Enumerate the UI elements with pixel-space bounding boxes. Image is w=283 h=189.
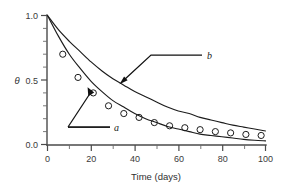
data-point-marker xyxy=(258,132,264,138)
data-point-marker xyxy=(212,129,218,135)
x-axis-major-ticks xyxy=(48,145,266,151)
y-tick-label-0.5: 0.5 xyxy=(25,76,38,86)
curve-b xyxy=(48,16,266,131)
data-point-marker xyxy=(228,130,234,136)
y-axis-major-ticks xyxy=(41,16,47,145)
chart-figure: 1.0 0.5 0.0 θ 0 20 40 60 80 100 T xyxy=(0,0,283,189)
data-point-marker xyxy=(105,103,111,109)
x-tick-label-80: 80 xyxy=(218,154,228,164)
y-tick-label-1: 1.0 xyxy=(25,11,38,21)
data-point-marker xyxy=(243,131,249,137)
x-tick-label-60: 60 xyxy=(174,154,184,164)
annotation-a: a xyxy=(68,87,119,132)
curve-label-a: a xyxy=(114,122,119,133)
data-point-marker xyxy=(75,74,81,80)
data-point-marker xyxy=(182,125,188,131)
annotation-b: b xyxy=(120,50,213,85)
x-tick-label-20: 20 xyxy=(86,154,96,164)
data-point-marker xyxy=(121,110,127,116)
data-point-marker xyxy=(166,123,172,129)
chart-plot-area: 1.0 0.5 0.0 θ 0 20 40 60 80 100 T xyxy=(0,0,283,189)
x-axis-title: Time (days) xyxy=(131,171,181,182)
y-axis-title: θ xyxy=(14,75,20,86)
data-point-marker xyxy=(60,51,66,57)
x-tick-label-100: 100 xyxy=(258,154,273,164)
y-tick-label-0: 0.0 xyxy=(25,140,38,150)
x-tick-label-40: 40 xyxy=(130,154,140,164)
x-tick-label-0: 0 xyxy=(45,154,50,164)
curve-label-b: b xyxy=(207,50,212,61)
data-point-marker xyxy=(197,127,203,133)
curve-a xyxy=(48,16,266,141)
